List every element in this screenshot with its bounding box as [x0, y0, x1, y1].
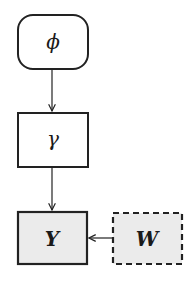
node-w: W [113, 213, 182, 264]
graphical-model-diagram: ϕ γ Y W [0, 0, 196, 282]
node-phi: ϕ [18, 15, 88, 69]
node-phi-label: ϕ [46, 30, 60, 54]
node-y-label: Y [45, 227, 61, 251]
node-w-label: W [136, 227, 161, 251]
node-y: Y [18, 212, 87, 264]
node-gamma-label: γ [47, 127, 59, 151]
node-gamma: γ [18, 113, 88, 167]
